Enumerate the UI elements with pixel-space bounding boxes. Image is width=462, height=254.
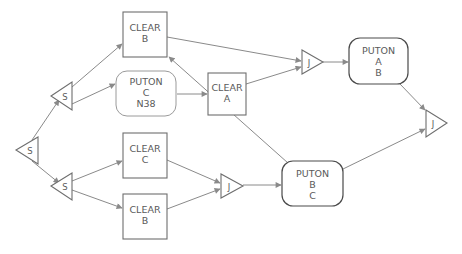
- edge-clear-a-to-join-top: [246, 67, 301, 84]
- goal-node-puton-b-c: PUTON B C: [282, 161, 343, 206]
- join-triangle-shape: [221, 174, 243, 198]
- action-node-clear-a: CLEAR A: [208, 73, 246, 115]
- edge-puton-bc-to-join-final: [343, 129, 425, 169]
- node-label-line-1: CLEAR: [129, 143, 160, 154]
- node-label-line-2: B: [142, 215, 149, 226]
- goal-node-puton-c-n38: PUTON C N38: [116, 71, 176, 116]
- edge-bottom-split-to-clear-b: [72, 190, 122, 208]
- join-label: J: [227, 182, 231, 192]
- node-label-line-2: A: [224, 93, 231, 104]
- plan-network-diagram: S S S J J J CLEAR B CLEAR A CLEAR C CLEA…: [0, 0, 462, 254]
- join-triangle-shape: [426, 110, 447, 137]
- action-node-clear-b-bottom: CLEAR B: [123, 194, 167, 239]
- split-node-root: S: [16, 137, 38, 164]
- node-label-line-2: C: [142, 154, 149, 165]
- node-label-line-2: C: [143, 87, 150, 98]
- edge-puton-ab-to-join-final: [400, 84, 425, 110]
- join-node-bottom: J: [221, 174, 243, 198]
- node-label-line-3: N38: [136, 98, 155, 109]
- node-label-line-1: CLEAR: [129, 204, 160, 215]
- node-label-line-1: PUTON: [362, 45, 395, 56]
- edge-clear-c-to-join-bottom: [167, 160, 220, 183]
- goal-node-puton-a-b: PUTON A B: [349, 38, 408, 84]
- edge-root-to-top-split: [32, 100, 59, 140]
- edge-bottom-split-to-clear-c: [72, 161, 122, 181]
- node-label-line-1: PUTON: [296, 168, 329, 179]
- join-node-final: J: [426, 110, 447, 137]
- edge-clear-b-to-join-top: [167, 37, 301, 61]
- edge-root-to-bottom-split: [32, 161, 59, 183]
- action-node-clear-c: CLEAR C: [123, 133, 167, 178]
- edge-top-split-to-clear-b: [72, 44, 122, 87]
- node-label-line-1: CLEAR: [129, 22, 160, 33]
- edge-top-split-to-puton-c: [72, 84, 115, 104]
- split-label: S: [62, 92, 67, 102]
- join-node-top: J: [302, 50, 323, 74]
- action-node-clear-b-top: CLEAR B: [123, 12, 167, 57]
- node-label-line-2: B: [142, 33, 149, 44]
- node-label-line-2: B: [309, 179, 316, 190]
- edge-clear-b-to-join-bottom: [167, 189, 220, 209]
- join-label: J: [307, 58, 311, 68]
- split-node-bottom: S: [51, 173, 72, 200]
- split-node-top: S: [51, 82, 72, 110]
- node-label-line-1: PUTON: [129, 76, 162, 87]
- node-label-line-1: CLEAR: [211, 82, 242, 93]
- split-label: S: [27, 146, 32, 156]
- node-label-line-3: C: [309, 190, 316, 201]
- join-label: J: [431, 119, 435, 129]
- node-label-line-3: B: [375, 67, 382, 78]
- node-label-line-2: A: [375, 56, 382, 67]
- join-triangle-shape: [302, 50, 323, 74]
- split-label: S: [62, 182, 67, 192]
